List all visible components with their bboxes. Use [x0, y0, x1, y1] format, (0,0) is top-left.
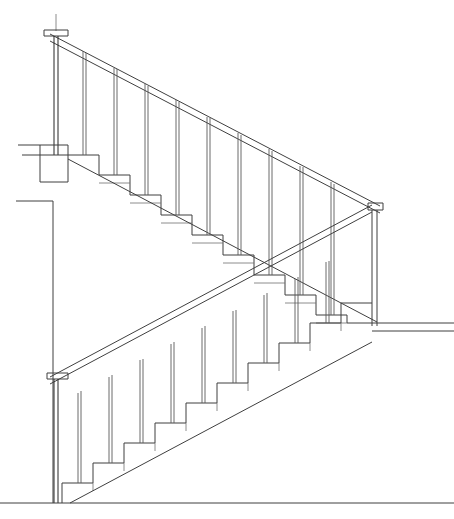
upper-handrail	[50, 34, 380, 213]
baluster	[238, 133, 241, 255]
baluster	[326, 261, 329, 323]
baluster	[83, 51, 86, 155]
baluster	[233, 310, 236, 383]
landing-upper-left	[18, 145, 68, 182]
baluster	[331, 182, 334, 315]
baluster	[202, 326, 205, 403]
newel-post-top-left	[44, 14, 68, 155]
baluster	[207, 117, 210, 235]
baluster	[176, 100, 179, 215]
baluster	[140, 359, 143, 443]
lower-flight-group	[50, 205, 372, 503]
staircase-drawing-canvas	[0, 0, 454, 519]
wall-left	[16, 201, 53, 503]
baluster	[264, 293, 267, 363]
lower-balusters	[78, 261, 329, 483]
lower-stringer	[70, 342, 372, 503]
baluster	[78, 391, 81, 483]
landing-right	[372, 323, 454, 331]
baluster	[269, 149, 272, 275]
baluster	[145, 84, 148, 195]
staircase-section-drawing	[0, 0, 454, 519]
newel-post-right	[368, 203, 383, 326]
lower-handrail	[50, 205, 372, 384]
baluster	[109, 375, 112, 463]
upper-flight-group	[50, 34, 380, 323]
baluster	[114, 68, 117, 175]
baluster	[295, 277, 298, 343]
baluster	[171, 342, 174, 423]
baluster	[300, 166, 303, 295]
lower-treads	[62, 303, 372, 503]
